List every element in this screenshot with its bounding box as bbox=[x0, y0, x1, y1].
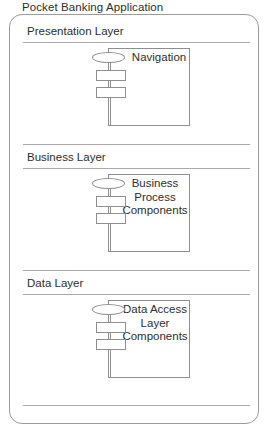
component-label-line-2: Process bbox=[120, 191, 190, 205]
interface-ellipse-icon-data bbox=[92, 304, 125, 315]
layer-divider-presentation bbox=[23, 42, 250, 43]
component-tab-icon-business-2 bbox=[96, 213, 126, 224]
layer-title-data: Data Layer bbox=[27, 277, 83, 289]
layer-title-presentation: Presentation Layer bbox=[27, 25, 124, 37]
architecture-diagram: Pocket Banking Application Presentation … bbox=[0, 0, 269, 438]
component-label-navigation: Navigation bbox=[128, 51, 190, 65]
component-label-line-1: Business bbox=[120, 177, 190, 191]
component-label-line-3: Components bbox=[120, 204, 190, 218]
layer-divider-business bbox=[23, 168, 250, 169]
layer-top-divider-data bbox=[23, 270, 250, 271]
interface-ellipse-icon-business bbox=[92, 178, 125, 189]
system-title: Pocket Banking Application bbox=[22, 1, 163, 13]
layer-divider-data bbox=[23, 294, 250, 295]
component-label-data: Data Access Layer Components bbox=[120, 303, 190, 344]
component-tab-icon-data-1 bbox=[96, 322, 126, 333]
component-tab-icon-navigation-2 bbox=[96, 87, 126, 98]
component-tab-icon-data-2 bbox=[96, 339, 126, 350]
component-label-line-1: Data Access bbox=[120, 303, 190, 317]
component-tab-icon-navigation-1 bbox=[96, 70, 126, 81]
layer-top-divider-business bbox=[23, 144, 250, 145]
layer-bottom-divider bbox=[23, 405, 250, 406]
interface-ellipse-icon-navigation bbox=[92, 52, 125, 63]
layer-title-business: Business Layer bbox=[27, 151, 106, 163]
component-label-business: Business Process Components bbox=[120, 177, 190, 218]
component-tab-icon-business-1 bbox=[96, 196, 126, 207]
component-label-line-3: Components bbox=[120, 330, 190, 344]
component-label-line-2: Layer bbox=[120, 317, 190, 331]
